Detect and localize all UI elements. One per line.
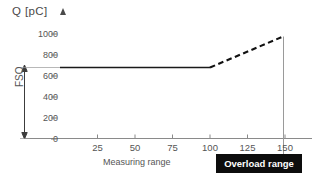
x-tick-label: 150 bbox=[277, 142, 293, 153]
x-tick-label: 25 bbox=[92, 142, 103, 153]
x-tick-label: 50 bbox=[130, 142, 141, 153]
measuring-range-caption: Measuring range bbox=[103, 157, 171, 167]
y-tick-mark bbox=[51, 33, 57, 34]
x-tick-label: 100 bbox=[202, 142, 218, 153]
y-tick-mark bbox=[51, 96, 57, 97]
fso-label: FSO bbox=[14, 66, 25, 87]
y-tick-mark bbox=[51, 117, 57, 118]
y-tick-mark bbox=[51, 75, 57, 76]
x-tick-label: 125 bbox=[240, 142, 256, 153]
overload-range-badge: Overload range bbox=[216, 154, 302, 173]
x-tick-label: 75 bbox=[167, 142, 178, 153]
y-tick-mark bbox=[51, 138, 57, 139]
x-tick-marks bbox=[98, 135, 286, 139]
overload-range-label: Overload range bbox=[224, 158, 294, 169]
overload-range-curve bbox=[210, 37, 283, 68]
chart-screenshot: Q [pC] 02004006008001000 bbox=[0, 0, 316, 183]
y-tick-mark bbox=[51, 54, 57, 55]
